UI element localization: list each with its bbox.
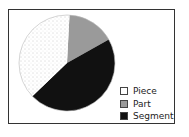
legend-item-piece: Piece <box>120 85 174 97</box>
legend-swatch-part <box>120 100 128 108</box>
legend-swatch-piece <box>120 87 128 95</box>
legend-label: Segment <box>133 110 174 122</box>
legend-item-segment: Segment <box>120 110 174 122</box>
legend-swatch-segment <box>120 112 128 120</box>
legend-item-part: Part <box>120 98 174 110</box>
legend-label: Part <box>133 98 151 110</box>
legend: Piece Part Segment <box>120 85 174 123</box>
legend-label: Piece <box>133 85 157 97</box>
